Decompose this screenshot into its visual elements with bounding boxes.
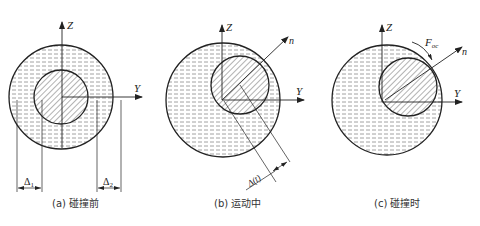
- y-axis-label: Y: [454, 87, 462, 99]
- n-axis-label: n: [289, 35, 294, 46]
- panel-a: Z Y Δ1 Δ2 (a) 碰撞前: [9, 19, 142, 209]
- y-axis-label: Y: [134, 82, 142, 94]
- y-axis-label: Y: [296, 85, 304, 97]
- delta-t-label: Δ(t): [245, 173, 263, 190]
- delta1-label: Δ1: [24, 176, 34, 189]
- dimension-arrow-delta-t: [273, 162, 287, 171]
- panel-c: Z Y n Foc (c) 碰撞时: [332, 21, 467, 209]
- z-axis-label: Z: [67, 19, 74, 31]
- z-axis-label: Z: [226, 21, 233, 33]
- caption-a: (a) 碰撞前: [52, 197, 99, 209]
- caption-b: (b) 运动中: [214, 197, 261, 209]
- caption-c: (c) 碰撞时: [374, 197, 420, 209]
- n-axis-label: n: [462, 46, 467, 57]
- z-axis-label: Z: [386, 21, 393, 33]
- delta2-label: Δ2: [103, 176, 113, 189]
- inner-circle-hatch: [379, 58, 437, 116]
- collision-diagram: Z Y Δ1 Δ2 (a) 碰撞前 Z Y n Δ(t) (b) 运动中: [0, 0, 480, 226]
- panel-b: Z Y n Δ(t) (b) 运动中: [166, 21, 304, 209]
- force-label: Foc: [424, 36, 439, 50]
